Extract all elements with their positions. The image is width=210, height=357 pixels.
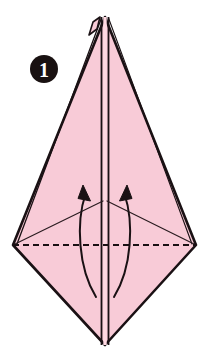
- origami-figure: 1: [0, 0, 210, 357]
- origami-diagram-canvas: 1: [0, 0, 210, 357]
- step-number-label: 1: [39, 59, 49, 81]
- step-number-badge: 1: [30, 55, 58, 83]
